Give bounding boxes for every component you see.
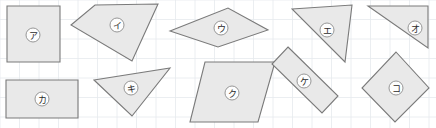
shape-outline-quadrilateral[interactable] <box>71 4 158 61</box>
shape-エ[interactable]: エ <box>292 5 352 62</box>
shape-ク[interactable]: ク <box>190 62 275 122</box>
shape-カ[interactable]: カ <box>6 80 78 118</box>
shape-ケ[interactable]: ケ <box>272 47 338 113</box>
shape-label-text: コ <box>392 84 401 94</box>
shape-label-text: ク <box>228 89 237 99</box>
shape-キ[interactable]: キ <box>94 68 170 116</box>
shape-label-text: イ <box>113 21 122 31</box>
shape-ア[interactable]: ア <box>7 6 60 62</box>
shape-label-text: オ <box>411 24 420 34</box>
shape-label-text: ウ <box>217 24 226 34</box>
shape-label-text: キ <box>127 84 136 94</box>
shape-label-text: ケ <box>300 77 309 87</box>
shape-ウ[interactable]: ウ <box>170 8 268 47</box>
shapes-layer: アイウエオカキクケコ <box>0 0 436 128</box>
shape-label-text: カ <box>38 95 47 105</box>
shape-イ[interactable]: イ <box>71 4 158 61</box>
shapes-figure: アイウエオカキクケコ <box>0 0 436 128</box>
shape-label-text: ア <box>29 31 38 41</box>
shape-label-text: エ <box>323 26 332 36</box>
shape-オ[interactable]: オ <box>368 6 428 48</box>
shape-コ[interactable]: コ <box>362 52 429 122</box>
